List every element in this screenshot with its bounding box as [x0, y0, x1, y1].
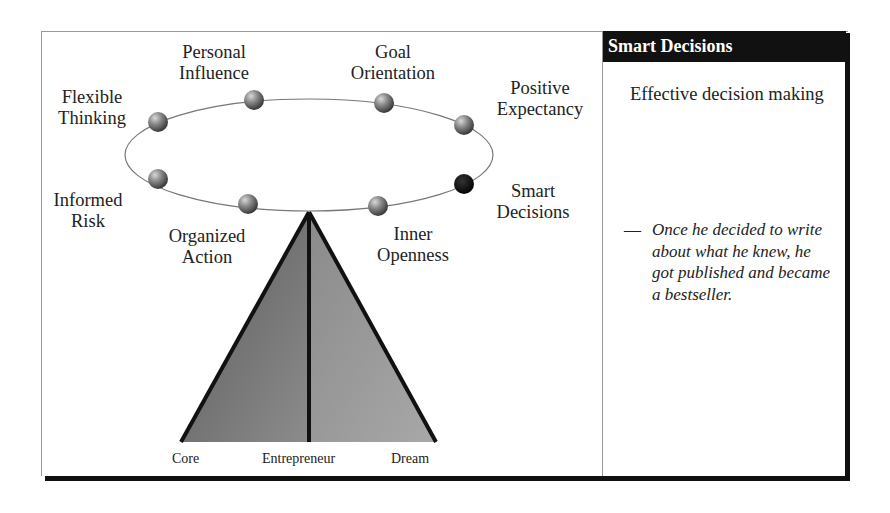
label-line: Organized: [152, 226, 262, 247]
ring-ellipse: [125, 99, 493, 211]
label-line: Smart: [478, 181, 588, 202]
label-line: Thinking: [42, 108, 142, 129]
quote-dash: —: [624, 219, 641, 241]
node-flexible-thinking-icon: [148, 112, 168, 132]
label-line: Flexible: [42, 87, 142, 108]
side-panel-title: Smart Decisions: [603, 31, 846, 62]
label-line: Decisions: [478, 202, 588, 223]
label-line: Openness: [358, 245, 468, 266]
label-inner-openness: Inner Openness: [358, 224, 468, 266]
label-line: Expectancy: [480, 99, 600, 120]
label-informed-risk: Informed Risk: [38, 190, 138, 232]
label-line: Action: [152, 247, 262, 268]
node-inner-openness-icon: [368, 196, 388, 216]
side-panel-subtitle: Effective decision making: [630, 83, 830, 106]
label-line: Personal: [164, 42, 264, 63]
label-personal-influence: Personal Influence: [164, 42, 264, 84]
pyramid-label-entrepreneur: Entrepreneur: [262, 451, 335, 467]
label-flexible-thinking: Flexible Thinking: [42, 87, 142, 129]
quote-text: Once he decided to write about what he k…: [624, 219, 834, 305]
side-panel-quote: — Once he decided to write about what he…: [624, 219, 834, 305]
label-organized-action: Organized Action: [152, 226, 262, 268]
node-smart-decisions-icon: [454, 174, 474, 194]
label-line: Goal: [333, 42, 453, 63]
label-smart-decisions: Smart Decisions: [478, 181, 588, 223]
label-positive-expectancy: Positive Expectancy: [480, 78, 600, 120]
node-goal-orientation-icon: [374, 93, 394, 113]
label-line: Influence: [164, 63, 264, 84]
node-personal-influence-icon: [244, 90, 264, 110]
node-informed-risk-icon: [148, 169, 168, 189]
pyramid-label-dream: Dream: [391, 451, 429, 467]
label-goal-orientation: Goal Orientation: [333, 42, 453, 84]
label-line: Positive: [480, 78, 600, 99]
node-positive-expectancy-icon: [454, 115, 474, 135]
node-organized-action-icon: [238, 194, 258, 214]
label-line: Orientation: [333, 63, 453, 84]
label-line: Risk: [38, 211, 138, 232]
pyramid-label-core: Core: [172, 451, 199, 467]
label-line: Inner: [358, 224, 468, 245]
label-line: Informed: [38, 190, 138, 211]
